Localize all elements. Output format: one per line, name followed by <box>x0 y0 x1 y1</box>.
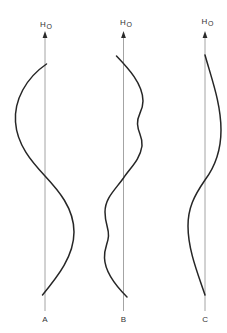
panel-b: HO B <box>104 18 143 324</box>
axis-b-arrow-icon <box>121 31 126 38</box>
axis-a-label: HO <box>40 20 53 30</box>
axis-c-arrow-icon <box>203 31 208 38</box>
axis-b-label: HO <box>120 18 133 28</box>
axis-a-arrow-icon <box>43 31 48 38</box>
wave-profile-diagram: HO A HO B HO C <box>0 0 227 333</box>
axis-c-label: HO <box>202 17 215 27</box>
panel-c: HO C <box>188 17 221 324</box>
panel-b-label: B <box>121 315 126 324</box>
panel-c-label: C <box>202 315 208 324</box>
panel-a: HO A <box>15 20 74 324</box>
curve-c <box>188 55 221 295</box>
panel-a-label: A <box>42 315 48 324</box>
